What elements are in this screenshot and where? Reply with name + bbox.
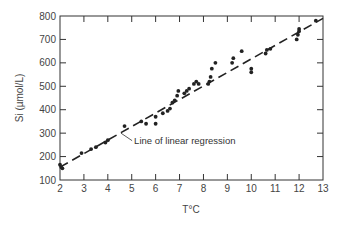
data-point <box>123 124 127 128</box>
x-tick-label: 3 <box>81 183 87 194</box>
data-point <box>314 19 318 23</box>
data-point <box>249 70 253 74</box>
data-point <box>154 115 158 119</box>
y-axis-title: Si (µmol/L) <box>14 74 25 123</box>
x-axis-title: T°C <box>182 204 199 215</box>
y-axis-ticks: 100200300400500600700800 <box>39 11 323 186</box>
data-point <box>209 75 213 79</box>
y-tick-label: 400 <box>39 104 56 115</box>
annotation-label: Line of linear regression <box>134 135 235 146</box>
x-tick-label: 7 <box>177 183 183 194</box>
data-point <box>249 67 253 71</box>
data-point <box>106 138 110 142</box>
x-axis-ticks: 2345678910111213 <box>57 16 329 194</box>
regression-annotation: Line of linear regression <box>121 133 236 146</box>
data-point <box>210 67 214 71</box>
x-tick-label: 8 <box>201 183 207 194</box>
x-tick-label: 10 <box>246 183 258 194</box>
data-point <box>89 147 93 151</box>
data-point <box>214 61 218 65</box>
data-point <box>161 111 165 115</box>
data-point <box>144 122 148 126</box>
data-point <box>168 107 172 111</box>
annotation-leader-line <box>121 133 132 141</box>
data-point <box>265 48 269 52</box>
data-point <box>296 33 300 37</box>
data-point <box>297 27 301 31</box>
data-point <box>154 122 158 126</box>
x-tick-label: 13 <box>317 183 329 194</box>
y-tick-label: 100 <box>39 175 56 186</box>
data-point <box>139 120 143 124</box>
data-point <box>176 89 180 93</box>
y-tick-label: 500 <box>39 81 56 92</box>
data-point <box>269 47 273 51</box>
data-point <box>208 80 212 84</box>
x-tick-label: 2 <box>57 183 63 194</box>
data-point <box>264 52 268 56</box>
x-tick-label: 11 <box>270 183 281 194</box>
data-point <box>187 87 191 91</box>
data-point <box>80 151 84 155</box>
y-tick-label: 600 <box>39 57 56 68</box>
y-tick-label: 200 <box>39 151 56 162</box>
data-point <box>231 56 235 60</box>
data-point <box>60 166 64 170</box>
x-tick-label: 9 <box>225 183 231 194</box>
x-tick-label: 12 <box>294 183 306 194</box>
y-tick-label: 700 <box>39 34 56 45</box>
data-point <box>173 98 177 102</box>
y-tick-label: 300 <box>39 128 56 139</box>
scatter-chart: 100200300400500600700800 234567891011121… <box>0 0 344 228</box>
data-point <box>230 61 234 65</box>
y-tick-label: 800 <box>39 11 56 22</box>
data-point <box>295 38 299 42</box>
x-tick-label: 4 <box>105 183 111 194</box>
x-tick-label: 5 <box>129 183 135 194</box>
data-point <box>240 49 244 53</box>
data-point <box>94 145 98 149</box>
x-tick-label: 6 <box>153 183 159 194</box>
data-point <box>197 82 201 86</box>
data-point <box>175 94 179 98</box>
